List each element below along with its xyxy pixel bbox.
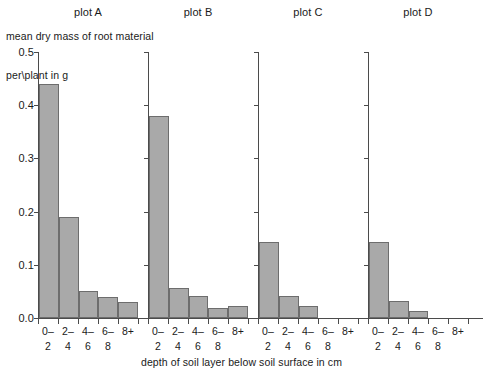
x-tick-label-top: 4– bbox=[188, 324, 208, 339]
x-tick-label-bottom bbox=[448, 339, 468, 354]
x-tick-label-bottom: 4 bbox=[388, 339, 408, 354]
x-tick-label-bottom: 4 bbox=[168, 339, 188, 354]
bar-slot bbox=[79, 52, 99, 318]
chart-panel: plot B bbox=[148, 52, 248, 318]
root-mass-bar-chart: mean dry mass of root material per\plant… bbox=[0, 0, 483, 375]
bar-slot bbox=[318, 52, 338, 318]
x-tick-label: 8+ bbox=[118, 324, 138, 358]
bar-slot bbox=[118, 52, 138, 318]
y-tick-label: 0.3 bbox=[6, 152, 34, 164]
x-tick-label-top: 8+ bbox=[118, 324, 138, 339]
x-tick-label-top: 8+ bbox=[448, 324, 468, 339]
bar-slot bbox=[39, 52, 59, 318]
x-tick-label-top: 0– bbox=[258, 324, 278, 339]
bar-slot bbox=[208, 52, 228, 318]
x-tick-label-top: 6– bbox=[208, 324, 228, 339]
panel-title: plot C bbox=[258, 6, 358, 18]
panel-title: plot A bbox=[38, 6, 138, 18]
x-tick-label-bottom: 4 bbox=[278, 339, 298, 354]
x-tick-label: 6–8 bbox=[98, 324, 118, 358]
bar bbox=[389, 301, 409, 318]
bar bbox=[98, 297, 118, 318]
x-tick-labels: 0–22–44–66–88+ bbox=[38, 324, 138, 358]
x-tick-label: 8+ bbox=[228, 324, 248, 358]
x-axis-title: depth of soil layer below soil surface i… bbox=[0, 356, 483, 368]
bar-group bbox=[149, 52, 248, 318]
x-tick-label-top: 6– bbox=[318, 324, 338, 339]
y-tick-label: 0.5 bbox=[6, 46, 34, 58]
x-tick-label-top: 2– bbox=[58, 324, 78, 339]
x-tick-label: 2–4 bbox=[388, 324, 408, 358]
x-tick-label-top: 6– bbox=[98, 324, 118, 339]
bar-slot bbox=[428, 52, 448, 318]
bar-group bbox=[259, 52, 358, 318]
x-tick-label-bottom: 2 bbox=[38, 339, 58, 354]
bar bbox=[369, 242, 389, 318]
bar bbox=[79, 291, 99, 318]
x-tick-label-top: 0– bbox=[38, 324, 58, 339]
bar bbox=[259, 242, 279, 318]
chart-panel: plot A bbox=[38, 52, 138, 318]
x-tick-label-bottom: 8 bbox=[318, 339, 338, 354]
x-tick-label-top: 2– bbox=[168, 324, 188, 339]
x-tick-label-top: 0– bbox=[148, 324, 168, 339]
bar-slot bbox=[228, 52, 248, 318]
x-tick-label: 6–8 bbox=[318, 324, 338, 358]
chart-panel: plot C bbox=[258, 52, 358, 318]
bar bbox=[59, 217, 79, 318]
bar-slot bbox=[409, 52, 429, 318]
x-tick-label-top: 0– bbox=[368, 324, 388, 339]
bar-slot bbox=[59, 52, 79, 318]
bar bbox=[149, 116, 169, 318]
x-tick-label-bottom: 6 bbox=[188, 339, 208, 354]
x-tick-label-top: 4– bbox=[298, 324, 318, 339]
bar-slot bbox=[259, 52, 279, 318]
bar bbox=[39, 84, 59, 318]
x-tick-label-bottom: 2 bbox=[368, 339, 388, 354]
x-tick-label: 8+ bbox=[448, 324, 468, 358]
x-tick-label: 4–6 bbox=[298, 324, 318, 358]
bar-slot bbox=[299, 52, 319, 318]
panel-title: plot D bbox=[368, 6, 468, 18]
x-tick-label-bottom bbox=[118, 339, 138, 354]
x-tick-label-bottom: 8 bbox=[98, 339, 118, 354]
bar-slot bbox=[169, 52, 189, 318]
x-tick-label-bottom: 8 bbox=[428, 339, 448, 354]
bar bbox=[118, 302, 138, 318]
x-tick-label-top: 8+ bbox=[228, 324, 248, 339]
x-tick-label: 2–4 bbox=[58, 324, 78, 358]
x-tick-label: 2–4 bbox=[278, 324, 298, 358]
bar bbox=[189, 296, 209, 318]
x-tick-label: 4–6 bbox=[408, 324, 428, 358]
bar-group bbox=[39, 52, 138, 318]
x-tick-label-bottom: 6 bbox=[78, 339, 98, 354]
x-tick-label: 0–2 bbox=[148, 324, 168, 358]
y-axis-tick-labels: 0.50.40.30.20.10.0 bbox=[0, 0, 34, 375]
bar-slot bbox=[369, 52, 389, 318]
x-tick-label-top: 4– bbox=[78, 324, 98, 339]
x-tick-label-top: 2– bbox=[278, 324, 298, 339]
bar bbox=[169, 288, 189, 318]
x-tick-label: 0–2 bbox=[258, 324, 278, 358]
bar-group bbox=[369, 52, 468, 318]
x-tick-labels: 0–22–44–66–88+ bbox=[258, 324, 358, 358]
y-tick-label: 0.4 bbox=[6, 99, 34, 111]
bar bbox=[299, 306, 319, 318]
bar bbox=[208, 308, 228, 318]
x-axis-tick bbox=[248, 319, 249, 324]
bar-slot bbox=[448, 52, 468, 318]
bar-slot bbox=[279, 52, 299, 318]
x-tick-label-top: 2– bbox=[388, 324, 408, 339]
x-tick-label: 0–2 bbox=[368, 324, 388, 358]
x-tick-label: 8+ bbox=[338, 324, 358, 358]
y-tick-label: 0.2 bbox=[6, 206, 34, 218]
bar bbox=[279, 296, 299, 318]
x-axis-tick bbox=[358, 319, 359, 324]
x-tick-label-top: 4– bbox=[408, 324, 428, 339]
x-tick-label-bottom: 4 bbox=[58, 339, 78, 354]
x-tick-label: 4–6 bbox=[78, 324, 98, 358]
x-tick-label: 6–8 bbox=[208, 324, 228, 358]
x-tick-label-bottom: 8 bbox=[208, 339, 228, 354]
x-tick-label: 4–6 bbox=[188, 324, 208, 358]
bar-slot bbox=[338, 52, 358, 318]
